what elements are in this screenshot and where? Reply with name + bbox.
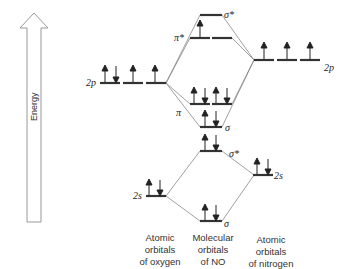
- label-n-2s: 2s: [274, 171, 283, 181]
- electron-pair-icon: [146, 179, 163, 196]
- electron-pair-icon: [191, 87, 208, 104]
- electron-up-icon: [152, 65, 158, 82]
- electron-pair-icon: [254, 158, 271, 175]
- label-o-2p: 2p: [86, 78, 96, 88]
- electron-pair-icon: [213, 87, 230, 104]
- electron-pair-icon: [202, 134, 219, 151]
- label-sigma-star-2p: σ*: [224, 10, 234, 20]
- label-o-2s: 2s: [133, 191, 142, 201]
- electron-pair-icon: [202, 204, 219, 221]
- caption-line: of nitrogen: [236, 258, 306, 269]
- electron-up-icon: [261, 42, 267, 59]
- electron-up-icon: [130, 65, 136, 82]
- caption-line: Atomic: [236, 234, 306, 246]
- electron-pair-icon: [102, 65, 119, 83]
- mo-diagram: [0, 0, 342, 269]
- electron-up-icon: [197, 20, 203, 37]
- label-pi: π: [176, 108, 181, 118]
- label-sigma-star-2s: σ*: [229, 149, 239, 159]
- electron-pair-icon: [202, 110, 219, 127]
- label-sigma-2p: σ: [225, 123, 230, 133]
- electron-up-icon: [284, 42, 290, 59]
- label-sigma-2s: σ: [224, 219, 229, 229]
- label-pi-star: π*: [174, 33, 184, 43]
- caption-nitrogen: Atomic orbitals of nitrogen: [236, 234, 306, 269]
- caption-line: orbitals: [236, 246, 306, 258]
- correlation-lines: [166, 15, 254, 221]
- energy-axis-label: Energy: [29, 93, 39, 121]
- electron-up-icon: [307, 42, 313, 59]
- label-n-2p: 2p: [324, 63, 334, 73]
